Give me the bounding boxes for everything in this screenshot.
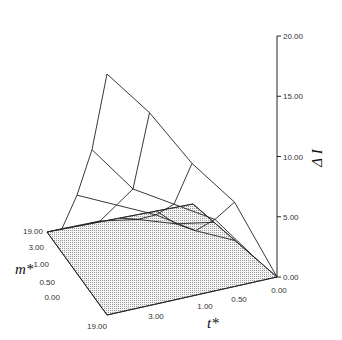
m-tick-label: 3.00 <box>28 243 44 252</box>
surface-grid-line <box>47 74 107 232</box>
z-tick-label: 0.00 <box>283 273 299 282</box>
t-tick-label: 3.00 <box>148 312 164 321</box>
surface-grid-line <box>84 113 150 225</box>
t-axis-title: t* <box>207 315 219 331</box>
z-tick-label: 5.00 <box>283 213 299 222</box>
m-axis-title: m* <box>15 261 34 277</box>
z-axis-ticks: 0.005.0010.0015.0020.00 <box>277 32 304 282</box>
z-tick-label: 15.00 <box>283 92 304 101</box>
m-tick-label: 0.50 <box>39 278 55 287</box>
surface-chart: 0.005.0010.0015.0020.00 19.003.001.000.5… <box>0 0 342 340</box>
m-tick-label: 19.00 <box>23 227 44 236</box>
t-tick-label: 0.50 <box>231 295 247 304</box>
z-tick-label: 10.00 <box>283 153 304 162</box>
z-tick-label: 20.00 <box>283 32 304 41</box>
z-axis-title: Δ I <box>309 148 325 167</box>
t-tick-label: 19.00 <box>87 322 108 331</box>
t-tick-label: 1.00 <box>197 302 213 311</box>
t-tick-label: 0.00 <box>271 286 287 295</box>
m-tick-label: 0.00 <box>44 293 60 302</box>
m-tick-label: 1.00 <box>33 260 49 269</box>
